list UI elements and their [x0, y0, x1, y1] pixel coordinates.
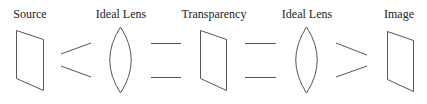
- parallel-rays-1-icon: [151, 44, 181, 78]
- ideal-lens-2-icon: [296, 27, 318, 93]
- ideal-lens-1-icon: [110, 27, 132, 93]
- image-plane-icon: [388, 32, 414, 92]
- optical-system-diagram: Source Ideal Lens Transparency Ideal Len…: [0, 0, 427, 104]
- transparency-plane-icon: [201, 31, 227, 91]
- source-plane-icon: [17, 31, 44, 91]
- diverging-rays-icon: [61, 43, 91, 77]
- parallel-rays-2-icon: [245, 44, 276, 78]
- diagram-canvas: [0, 0, 427, 104]
- converging-rays-icon: [336, 43, 367, 77]
